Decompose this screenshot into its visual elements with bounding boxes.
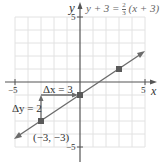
coordinate-plane [0, 0, 160, 168]
point-0-neg1 [77, 92, 83, 98]
y-tick-min: −5 [66, 143, 76, 152]
equation-label: y + 3 = 2 3 (x + 3) [86, 2, 159, 17]
point-neg3-neg3 [38, 118, 44, 124]
delta-y-label: Δy = 2 [12, 103, 42, 114]
fraction-denominator: 3 [122, 10, 126, 17]
equation-tail: (x + 3) [128, 2, 159, 14]
equation-head: y + 3 = [86, 2, 122, 14]
delta-x-label: Δx = 3 [43, 84, 73, 95]
point-label: (−3, −3) [33, 132, 69, 143]
x-axis-label: x [151, 85, 156, 97]
x-tick-max: 5 [141, 86, 146, 95]
y-tick-max: 5 [71, 13, 76, 22]
point-3-1 [116, 66, 122, 72]
equation-fraction: 2 3 [122, 2, 126, 17]
x-tick-min: −5 [8, 86, 18, 95]
